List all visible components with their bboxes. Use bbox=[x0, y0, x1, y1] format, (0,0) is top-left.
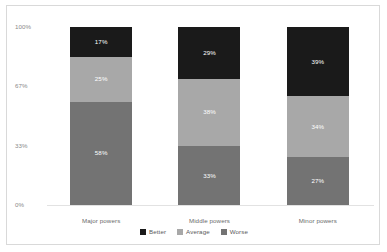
legend-label: Better bbox=[149, 228, 166, 235]
bar-segment-value-label: 34% bbox=[311, 124, 324, 130]
bar-segment-value-label: 27% bbox=[311, 178, 324, 184]
y-axis: 100%67%33%0% bbox=[15, 22, 49, 205]
y-axis-tick: 100% bbox=[15, 23, 49, 30]
bar-segment-value-label: 25% bbox=[95, 76, 108, 82]
bar-segment-average[interactable]: 34% bbox=[287, 96, 349, 157]
category-label-cell: Minor powers bbox=[277, 209, 359, 227]
legend-label: Worse bbox=[230, 228, 248, 235]
category-label-cell: Middle powers bbox=[168, 209, 250, 227]
bar-group: 29%38%33% bbox=[168, 27, 250, 205]
bar-segment-value-label: 38% bbox=[203, 109, 216, 115]
bar-segment-value-label: 58% bbox=[95, 150, 108, 156]
legend-item[interactable]: Average bbox=[177, 228, 210, 235]
bar-segment-better[interactable]: 29% bbox=[178, 27, 240, 79]
bar-stack[interactable]: 39%34%27% bbox=[287, 27, 349, 205]
legend-swatch-icon bbox=[140, 229, 146, 235]
category-labels: Major powersMiddle powersMinor powers bbox=[47, 209, 372, 227]
y-axis-tick: 0% bbox=[15, 201, 49, 208]
chart-frame: 100%67%33%0% 17%25%58%29%38%33%39%34%27%… bbox=[6, 5, 380, 245]
bar-segment-value-label: 33% bbox=[203, 173, 216, 179]
bar-segment-worse[interactable]: 58% bbox=[70, 102, 132, 205]
bar-segment-better[interactable]: 39% bbox=[287, 27, 349, 96]
category-label: Middle powers bbox=[189, 217, 230, 224]
bar-stack[interactable]: 17%25%58% bbox=[70, 27, 132, 205]
bar-group: 39%34%27% bbox=[277, 27, 359, 205]
legend-item[interactable]: Worse bbox=[221, 228, 248, 235]
y-axis-tick: 33% bbox=[15, 142, 49, 149]
bar-segment-value-label: 17% bbox=[95, 39, 108, 45]
plot-area: 17%25%58%29%38%33%39%34%27% bbox=[47, 22, 372, 205]
bar-segment-value-label: 39% bbox=[311, 59, 324, 65]
y-axis-tick: 67% bbox=[15, 82, 49, 89]
legend-item[interactable]: Better bbox=[140, 228, 166, 235]
bar-stack[interactable]: 29%38%33% bbox=[178, 27, 240, 205]
bar-segment-average[interactable]: 25% bbox=[70, 57, 132, 102]
bar-segment-value-label: 29% bbox=[203, 50, 216, 56]
bar-segment-better[interactable]: 17% bbox=[70, 27, 132, 57]
legend-swatch-icon bbox=[177, 229, 183, 235]
x-axis-baseline bbox=[47, 205, 374, 206]
legend-swatch-icon bbox=[221, 229, 227, 235]
category-label: Major powers bbox=[82, 217, 120, 224]
bar-segment-worse[interactable]: 27% bbox=[287, 157, 349, 205]
bar-segment-worse[interactable]: 33% bbox=[178, 146, 240, 205]
bar-segment-average[interactable]: 38% bbox=[178, 79, 240, 147]
category-label-cell: Major powers bbox=[60, 209, 142, 227]
bar-group: 17%25%58% bbox=[60, 27, 142, 205]
chart-legend: BetterAverageWorse bbox=[7, 228, 381, 235]
legend-label: Average bbox=[186, 228, 210, 235]
bars-row: 17%25%58%29%38%33%39%34%27% bbox=[47, 22, 372, 205]
category-label: Minor powers bbox=[299, 217, 337, 224]
